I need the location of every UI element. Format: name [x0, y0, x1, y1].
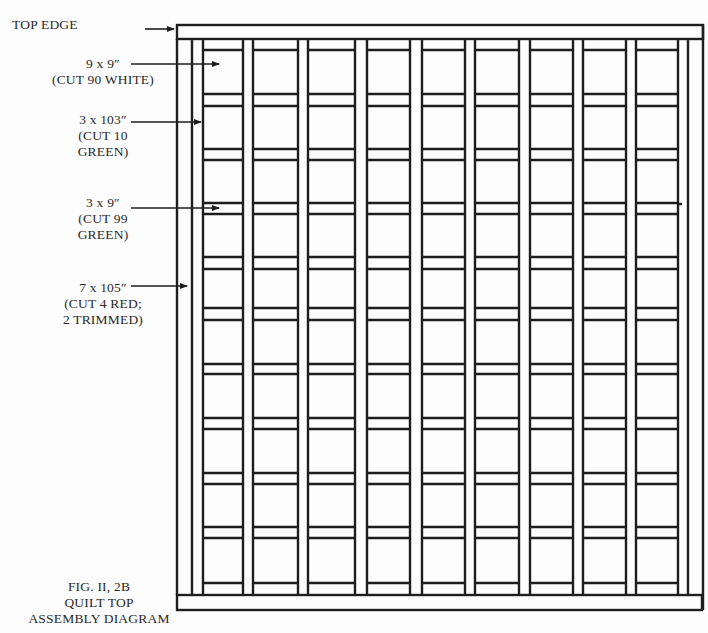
pointer-arrows — [131, 29, 219, 286]
quilt-assembly-diagram — [0, 0, 708, 633]
quilt-grid — [177, 25, 703, 610]
top-border-strip — [177, 25, 703, 39]
bottom-border-strip — [177, 595, 702, 610]
